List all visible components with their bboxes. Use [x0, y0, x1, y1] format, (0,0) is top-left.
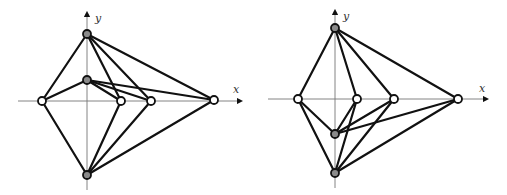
vertex-inner1 — [353, 95, 361, 103]
edge-lowmid-left — [298, 99, 335, 134]
vertex-left — [294, 95, 302, 103]
vertex-mid — [83, 76, 91, 84]
left-graph-figure: xy — [18, 12, 240, 190]
vertex-top — [331, 24, 339, 32]
edge-bottom-left — [42, 101, 87, 175]
edge-bottom-inner2 — [87, 101, 151, 175]
y-axis-label: y — [94, 12, 102, 25]
edge-bottom-far — [87, 100, 214, 175]
edge-top-inner2 — [335, 28, 394, 99]
edge-bottom-left — [298, 99, 335, 173]
x-axis-label: x — [479, 82, 486, 95]
y-axis-label: y — [342, 10, 350, 23]
edge-top-left — [298, 28, 335, 99]
edge-lowmid-inner2 — [335, 99, 394, 134]
vertex-top — [83, 30, 91, 38]
vertex-inner1 — [117, 97, 125, 105]
vertex-left — [38, 97, 46, 105]
vertex-bottom — [331, 169, 339, 177]
right-graph-figure: xy — [268, 10, 486, 188]
vertex-bottom — [83, 171, 91, 179]
vertex-far — [210, 96, 218, 104]
vertex-far — [454, 95, 462, 103]
edge-bottom-inner2 — [335, 99, 394, 173]
graph-drawings-canvas: xy xy — [0, 0, 507, 195]
vertex-inner2 — [390, 95, 398, 103]
vertex-lowmid — [331, 130, 339, 138]
x-axis-label: x — [233, 83, 240, 96]
vertex-inner2 — [147, 97, 155, 105]
